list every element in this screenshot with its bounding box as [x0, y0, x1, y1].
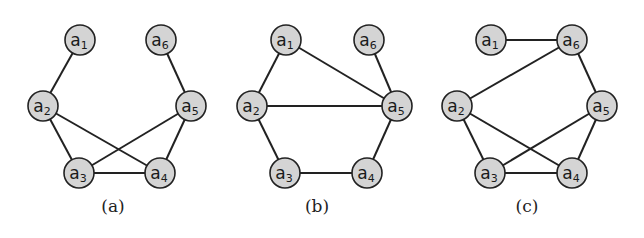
- node-a3: a3: [475, 158, 505, 188]
- node-a4: a4: [352, 158, 382, 188]
- node-a2: a2: [28, 91, 58, 121]
- graph-panel-a: a1a6a2a5a3a4(a): [28, 25, 206, 216]
- node-a4: a4: [557, 158, 587, 188]
- node-a1: a1: [65, 25, 95, 55]
- node-a4: a4: [145, 158, 175, 188]
- node-a6: a6: [146, 25, 176, 55]
- node-a5: a5: [587, 91, 617, 121]
- panel-caption-c: (c): [516, 196, 539, 216]
- node-a3: a3: [64, 158, 94, 188]
- node-a1: a1: [476, 25, 506, 55]
- node-a2: a2: [237, 91, 267, 121]
- node-a5: a5: [382, 91, 412, 121]
- node-a2: a2: [442, 91, 472, 121]
- node-a3: a3: [270, 158, 300, 188]
- panel-caption-b: (b): [305, 196, 329, 216]
- edge-a6-a2: [457, 40, 572, 106]
- node-a1: a1: [271, 25, 301, 55]
- node-a6: a6: [354, 25, 384, 55]
- node-a6: a6: [557, 25, 587, 55]
- node-a5: a5: [176, 91, 206, 121]
- graph-figure: a1a6a2a5a3a4(a)a1a6a2a5a3a4(b)a1a6a2a5a3…: [0, 0, 644, 238]
- panel-caption-a: (a): [101, 196, 124, 216]
- graph-panel-b: a1a6a2a5a3a4(b): [237, 25, 412, 216]
- edge-a5-a3: [490, 106, 602, 173]
- edge-a5-a3: [79, 106, 191, 173]
- graph-panel-c: a1a6a2a5a3a4(c): [442, 25, 617, 216]
